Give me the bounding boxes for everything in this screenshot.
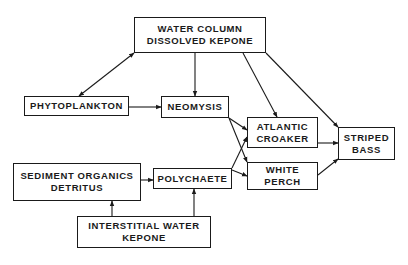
food-web-diagram: WATER COLUMN DISSOLVED KEPONE PHYTOPLANK…	[0, 0, 408, 265]
node-atlantic-croaker: ATLANTIC CROAKER	[247, 117, 318, 148]
node-label: WHITE	[266, 164, 300, 176]
node-polychaete: POLYCHAETE	[153, 168, 232, 189]
node-label: STRIPED	[344, 132, 389, 144]
node-label: NEOMYSIS	[168, 101, 223, 113]
node-striped-bass: STRIPED BASS	[338, 127, 395, 160]
node-label: CROAKER	[256, 133, 308, 145]
node-label: PHYTOPLANKTON	[30, 100, 123, 112]
node-white-perch: WHITE PERCH	[247, 162, 318, 190]
node-label: INTERSTITIAL WATER	[88, 220, 199, 232]
node-label: PERCH	[264, 176, 300, 188]
node-label: DISSOLVED KEPONE	[147, 35, 254, 47]
node-label: KEPONE	[122, 232, 166, 244]
node-label: SEDIMENT ORGANICS	[20, 170, 133, 182]
edge-polychaete-croaker	[232, 137, 247, 168]
node-sediment-organics: SEDIMENT ORGANICS DETRITUS	[13, 163, 141, 201]
edge-white-perch-striped-bass	[318, 159, 338, 175]
node-water-column: WATER COLUMN DISSOLVED KEPONE	[134, 17, 266, 53]
node-interstitial-water: INTERSTITIAL WATER KEPONE	[77, 216, 211, 248]
node-label: WATER COLUMN	[157, 23, 242, 35]
edge-water-croaker	[243, 53, 277, 117]
edge-polychaete-white-perch	[232, 170, 247, 176]
node-label: POLYCHAETE	[157, 173, 227, 185]
node-label: BASS	[352, 144, 381, 156]
node-label: DETRITUS	[51, 182, 103, 194]
node-neomysis: NEOMYSIS	[161, 96, 229, 118]
edge-water-phytoplankton	[79, 53, 134, 96]
node-label: ATLANTIC	[257, 121, 309, 133]
node-phytoplankton: PHYTOPLANKTON	[24, 96, 129, 116]
